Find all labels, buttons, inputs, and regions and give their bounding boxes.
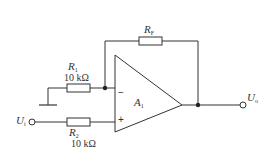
opamp-symbol <box>115 55 182 132</box>
junction-dot-output <box>196 103 200 107</box>
label-r2-value: 10 kΩ <box>71 139 96 149</box>
resistor-r1 <box>67 84 90 92</box>
label-output-uo: Uo <box>247 92 258 104</box>
label-inverting-input: − <box>118 88 124 98</box>
input-terminal-icon <box>29 119 35 125</box>
label-noninverting-input: + <box>118 115 124 125</box>
output-terminal-icon <box>240 102 246 108</box>
circuit-canvas <box>0 0 268 160</box>
resistor-r2 <box>67 118 90 126</box>
r1-ground-wire <box>48 88 67 105</box>
label-r1-value: 10 kΩ <box>64 73 89 83</box>
resistor-rf <box>139 37 162 45</box>
junction-dot-inverting <box>103 86 107 90</box>
label-opamp-a1: A1 <box>134 97 144 109</box>
label-input-ui: Ui <box>16 115 26 127</box>
label-rf: RF <box>144 24 154 36</box>
